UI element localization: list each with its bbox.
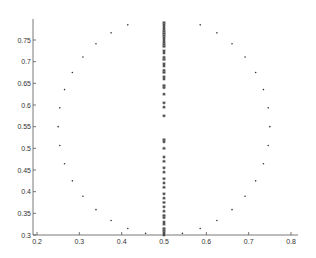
data-point	[269, 126, 271, 128]
data-point	[199, 24, 201, 26]
star-marker	[162, 210, 165, 213]
data-point	[95, 209, 97, 211]
star-marker	[162, 101, 165, 104]
data-point	[255, 180, 257, 182]
data-point	[145, 233, 147, 235]
star-marker	[162, 160, 165, 163]
star-marker	[162, 201, 165, 204]
x-tick-label: 0.2	[32, 238, 42, 245]
data-point	[82, 56, 84, 58]
x-tick-label: 0.7	[244, 238, 254, 245]
star-column-series	[162, 21, 165, 237]
x-tick-label: 0.3	[74, 238, 84, 245]
x-tick-label: 0.8	[286, 238, 296, 245]
data-point	[95, 43, 97, 45]
x-tick-label: 0.5	[159, 238, 169, 245]
y-tick-label: 0.45	[17, 167, 31, 174]
star-marker	[162, 114, 165, 117]
x-tick-label: 0.4	[117, 238, 127, 245]
data-point	[267, 107, 269, 109]
data-point	[127, 228, 129, 230]
data-point	[199, 228, 201, 230]
data-point	[57, 126, 59, 128]
data-point	[127, 24, 129, 26]
star-marker	[162, 186, 165, 189]
star-marker	[162, 177, 165, 180]
y-tick-label: 0.35	[17, 210, 31, 217]
data-point	[231, 209, 233, 211]
x-tick-label: 0.6	[201, 238, 211, 245]
star-marker	[162, 155, 165, 158]
star-marker	[162, 181, 165, 184]
data-point	[231, 43, 233, 45]
y-tick-label: 0.6	[21, 102, 31, 109]
scatter-chart: 0.20.30.40.50.60.70.8 0.30.350.40.450.50…	[0, 0, 316, 258]
data-point	[110, 32, 112, 34]
y-tick-label: 0.3	[21, 232, 31, 239]
data-point	[216, 32, 218, 34]
y-tick-label: 0.65	[17, 80, 31, 87]
y-tick-label: 0.75	[17, 37, 31, 44]
data-point	[59, 107, 61, 109]
data-point	[216, 220, 218, 222]
data-point	[182, 233, 184, 235]
data-point	[244, 196, 246, 198]
star-marker	[162, 93, 165, 96]
star-marker	[162, 147, 165, 150]
star-marker	[162, 192, 165, 195]
data-point	[64, 89, 66, 91]
star-marker	[162, 171, 165, 174]
data-point	[72, 72, 74, 74]
data-point	[110, 220, 112, 222]
data-point	[72, 180, 74, 182]
data-point	[263, 163, 265, 165]
data-point	[59, 145, 61, 147]
star-marker	[162, 205, 165, 208]
star-marker	[162, 197, 165, 200]
star-marker	[162, 166, 165, 169]
data-point	[244, 56, 246, 58]
y-tick-label: 0.4	[21, 188, 31, 195]
data-point	[64, 163, 66, 165]
y-tick-label: 0.55	[17, 123, 31, 130]
data-point	[255, 72, 257, 74]
y-tick-label: 0.5	[21, 145, 31, 152]
data-point	[263, 89, 265, 91]
data-point	[267, 145, 269, 147]
data-point	[82, 196, 84, 198]
y-tick-label: 0.7	[21, 58, 31, 65]
star-marker	[162, 106, 165, 109]
